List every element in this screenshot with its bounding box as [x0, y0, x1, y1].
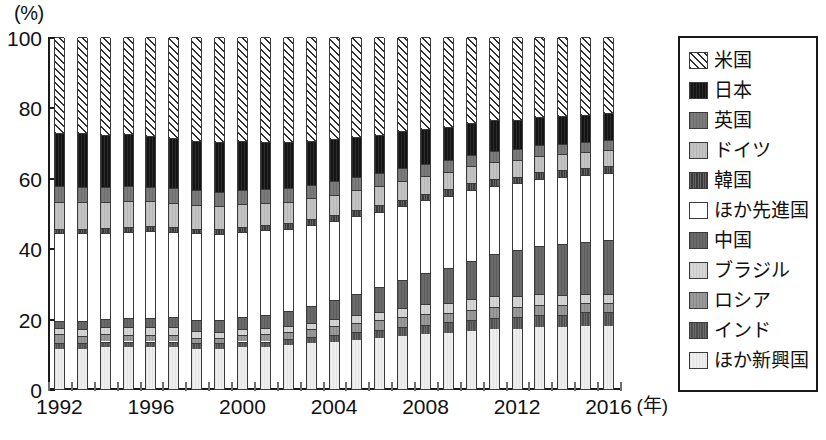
- bar-segment-br: [490, 296, 499, 307]
- bar-segment-uk: [513, 149, 522, 160]
- x-tick-mark: [140, 382, 142, 391]
- bar-segment-uk: [581, 142, 590, 153]
- bar-segment-kr: [169, 227, 178, 232]
- bar-segment-us: [307, 37, 316, 141]
- bar-segment-de: [307, 198, 316, 219]
- bar-segment-adv: [261, 230, 270, 314]
- bar-segment-br: [330, 319, 339, 326]
- x-tick-mark: [551, 382, 553, 391]
- bar-segment-us: [238, 37, 247, 141]
- bar-segment-uk: [421, 164, 430, 176]
- legend-label: ブラジル: [714, 261, 790, 280]
- legend-item-adv[interactable]: ほか先進国: [689, 195, 810, 225]
- bar-segment-de: [352, 190, 361, 210]
- x-tick-mark: [208, 382, 210, 391]
- legend-item-de[interactable]: ドイツ: [689, 135, 810, 165]
- legend-item-emg[interactable]: ほか新興国: [689, 345, 810, 375]
- bar-segment-emg: [169, 347, 178, 389]
- legend-item-ru[interactable]: ロシア: [689, 285, 810, 315]
- x-tick-mark: [345, 382, 347, 391]
- bar-segment-de: [146, 201, 155, 226]
- bar-segment-br: [558, 295, 567, 305]
- bar-segment-ru: [284, 332, 293, 339]
- bar-segment-kr: [604, 166, 613, 173]
- bar-segment-emg: [238, 347, 247, 389]
- bar-segment-cn: [169, 317, 178, 328]
- legend-item-uk[interactable]: 英国: [689, 105, 810, 135]
- bar-segment-jp: [124, 134, 133, 186]
- bar-segment-adv: [215, 234, 224, 320]
- legend-item-kr[interactable]: 韓国: [689, 165, 810, 195]
- legend-item-us[interactable]: 米国: [689, 45, 810, 75]
- bar-segment-kr: [535, 172, 544, 179]
- bar-segment-de: [238, 204, 247, 227]
- bar-segment-ru: [604, 303, 613, 311]
- bar-segment-uk: [352, 177, 361, 190]
- bar-segment-cn: [490, 254, 499, 296]
- bar-segment-cn: [352, 294, 361, 316]
- bar-segment-us: [101, 37, 110, 135]
- bar-segment-us: [169, 37, 178, 138]
- bar-segment-emg: [604, 326, 613, 389]
- bar-segment-adv: [490, 186, 499, 255]
- bar-segment-adv: [124, 232, 133, 318]
- bar-segment-kr: [352, 210, 361, 216]
- bar-segment-br: [238, 329, 247, 335]
- legend-item-jp[interactable]: 日本: [689, 75, 810, 105]
- bar-segment-kr: [421, 194, 430, 200]
- bar-2009: [443, 38, 454, 390]
- bar-segment-cn: [146, 318, 155, 328]
- bar-segment-in: [352, 332, 361, 340]
- bar-segment-de: [124, 201, 133, 226]
- bar-segment-us: [421, 37, 430, 129]
- bar-segment-uk: [444, 160, 453, 172]
- bar-segment-cn: [467, 261, 476, 300]
- bar-segment-kr: [55, 229, 64, 234]
- bar-2008: [420, 38, 431, 390]
- bar-segment-ru: [101, 334, 110, 341]
- legend-item-cn[interactable]: 中国: [689, 225, 810, 255]
- bar-segment-cn: [421, 273, 430, 305]
- bar-segment-uk: [467, 155, 476, 166]
- bar-segment-adv: [238, 232, 247, 316]
- bar-segment-jp: [513, 120, 522, 149]
- bar-segment-in: [604, 312, 613, 326]
- bar-segment-in: [307, 337, 316, 343]
- bar-segment-kr: [375, 205, 384, 211]
- x-tick-mark: [254, 382, 256, 391]
- legend-label: ロシア: [714, 291, 771, 310]
- bar-segment-cn: [375, 287, 384, 312]
- x-axis-label-2008: 2008: [402, 396, 449, 417]
- bar-segment-ru: [124, 335, 133, 341]
- bar-segment-br: [352, 315, 361, 323]
- bar-segment-emg: [192, 349, 201, 389]
- bar-segment-us: [467, 37, 476, 123]
- legend-swatch-ru: [689, 292, 708, 309]
- bar-segment-us: [55, 37, 64, 133]
- legend-item-in[interactable]: インド: [689, 315, 810, 345]
- bar-segment-kr: [146, 226, 155, 231]
- bar-2013: [534, 38, 545, 390]
- y-tick-label-20: 20: [19, 309, 42, 330]
- legend-item-br[interactable]: ブラジル: [689, 255, 810, 285]
- bar-segment-ru: [192, 338, 201, 343]
- x-tick-mark: [323, 382, 325, 391]
- bar-segment-de: [330, 195, 339, 215]
- bar-segment-br: [375, 312, 384, 320]
- bar-segment-in: [421, 325, 430, 335]
- x-tick-mark: [368, 382, 370, 391]
- bar-segment-ru: [78, 336, 87, 344]
- bar-segment-de: [169, 203, 178, 227]
- bar-segment-jp: [78, 133, 87, 187]
- bar-segment-br: [55, 328, 64, 334]
- bar-segment-adv: [192, 233, 201, 319]
- bar-segment-emg: [146, 347, 155, 389]
- bar-segment-adv: [398, 206, 407, 280]
- bar-segment-us: [146, 37, 155, 136]
- bar-segment-kr: [284, 223, 293, 229]
- bar-segment-uk: [398, 168, 407, 180]
- bar-segment-de: [78, 202, 87, 228]
- x-tick-mark: [94, 382, 96, 391]
- bar-segment-jp: [261, 142, 270, 190]
- bar-segment-adv: [513, 183, 522, 250]
